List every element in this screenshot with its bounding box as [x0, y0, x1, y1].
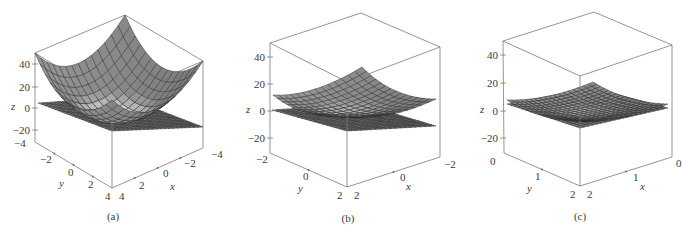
x-tick — [179, 157, 181, 159]
figure-three-3d-surface-plots: 40200−20z−4−2024420−2−4yx(a) 40200−20z−2… — [0, 0, 684, 235]
z-axis-line — [503, 41, 504, 153]
x-tick-label: 0 — [676, 157, 682, 169]
x-tick — [134, 177, 136, 179]
plot-panel-a: 40200−20z−4−2024420−2−4yx(a) — [10, 15, 223, 223]
y-axis-label: y — [526, 182, 532, 194]
x-tick-label: 4 — [119, 190, 125, 202]
z-tick-label: −20 — [248, 132, 266, 144]
z-axis-label: z — [245, 103, 251, 115]
x-tick — [625, 171, 627, 173]
y-tick-label: 0 — [303, 170, 309, 182]
y-tick-label: −2 — [40, 153, 52, 165]
y-axis-label: y — [58, 177, 64, 189]
x-tick-label: −4 — [211, 148, 223, 160]
x-tick-label: 2 — [354, 189, 360, 201]
panel-caption: (a) — [107, 210, 120, 223]
x-tick-label: 2 — [139, 179, 145, 191]
y-tick — [53, 153, 55, 155]
z-tick-label: 0 — [493, 105, 499, 117]
x-axis-label: x — [639, 180, 645, 192]
z-tick-label: 20 — [19, 81, 31, 93]
x-axis-label: x — [169, 180, 175, 192]
z-axis-label: z — [479, 103, 485, 115]
x-tick-label: 1 — [633, 171, 639, 183]
panel-caption: (c) — [574, 210, 587, 223]
plot-panel-c: 40200−20z012210yx(c) — [479, 12, 682, 223]
z-tick-label: 20 — [487, 77, 499, 89]
x-tick-label: −2 — [444, 158, 456, 170]
panel-caption: (b) — [342, 212, 355, 225]
z-tick-label: 20 — [254, 78, 266, 90]
box-edge-top-back-right — [594, 12, 672, 45]
plot-panel-b: 40200−20z−20220−2yx(b) — [245, 13, 456, 225]
z-tick-label: 0 — [25, 102, 31, 114]
y-tick-label: −2 — [256, 153, 268, 165]
z-tick-label: 40 — [19, 58, 31, 70]
y-tick-label: −4 — [14, 137, 26, 149]
box-edge-top-back-right — [361, 13, 440, 47]
y-tick-label: 0 — [490, 155, 496, 167]
z-tick-label: 40 — [487, 49, 499, 61]
x-tick-label: −2 — [184, 157, 196, 169]
y-tick — [541, 169, 543, 171]
y-tick-label: 2 — [88, 178, 94, 190]
y-tick-label: 2 — [337, 189, 343, 201]
x-tick-label: 2 — [587, 188, 593, 200]
box-edge-top-back-left — [270, 13, 361, 43]
y-axis-label: y — [297, 182, 303, 194]
x-tick — [393, 171, 395, 173]
z-tick-label: 40 — [254, 51, 266, 63]
box-edge-top-back-left — [503, 12, 594, 41]
z-axis-label: z — [10, 100, 16, 112]
z-tick-label: −20 — [481, 132, 499, 144]
y-tick-label: 2 — [570, 188, 576, 200]
box-edge-top-front-left — [503, 41, 580, 76]
z-tick-label: −20 — [13, 124, 31, 136]
box-edge-top-front-right — [580, 45, 672, 76]
x-tick — [157, 167, 159, 169]
z-tick-label: 0 — [260, 105, 266, 117]
x-tick-label: 0 — [163, 167, 169, 179]
y-tick-label: 4 — [105, 190, 111, 202]
paraboloid-surface — [273, 67, 436, 117]
paraboloid-surface — [507, 82, 668, 121]
x-axis-label: x — [405, 180, 411, 192]
y-tick-label: 0 — [68, 166, 74, 178]
box-edge-top-front-left — [270, 43, 347, 82]
y-tick-label: 1 — [535, 170, 541, 182]
